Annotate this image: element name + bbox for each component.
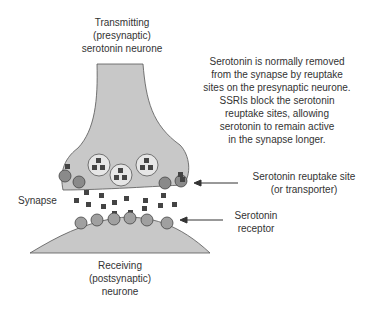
receiving-neuron-label: Receiving (postsynaptic) neurone [78, 259, 162, 298]
vesicle [88, 154, 110, 176]
postsynaptic-neuron [30, 217, 210, 253]
synapse-label: Synapse [18, 194, 66, 207]
transmitting-neuron-label: Transmitting (presynaptic) serotonin neu… [60, 16, 184, 55]
vesicle [110, 164, 132, 186]
explanation-text: Serotonin is normally removed from the s… [184, 55, 370, 146]
reuptake-site-label: Serotonin reuptake site (or transporter) [240, 170, 368, 196]
vesicle [136, 154, 158, 176]
arrow-reuptake [194, 180, 238, 186]
synapse-diagram [0, 0, 370, 310]
arrow-receptor [180, 217, 223, 223]
receptor-label: Serotonin receptor [226, 209, 286, 235]
